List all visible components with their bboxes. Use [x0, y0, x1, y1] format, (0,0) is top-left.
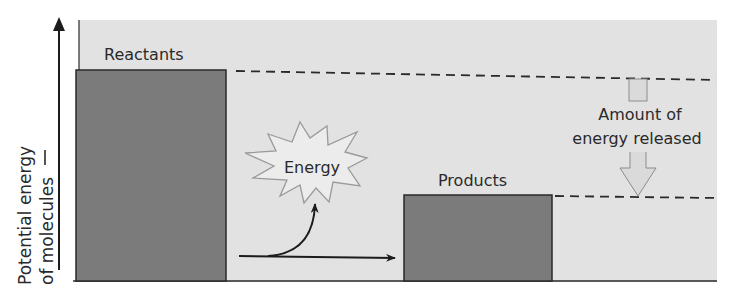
energy-burst-label: Energy	[284, 158, 340, 177]
released-label-line2: energy released	[572, 129, 701, 148]
reactants-bar	[76, 70, 226, 281]
energy-diagram: Potential energy of molecules Reactants …	[0, 0, 734, 303]
y-axis-label-line1: Potential energy	[15, 146, 35, 285]
reactants-label: Reactants	[104, 45, 184, 64]
products-bar	[404, 195, 552, 281]
released-label-line1: Amount of	[598, 105, 682, 124]
y-axis-label-line2: of molecules	[37, 177, 57, 285]
products-label: Products	[438, 171, 507, 190]
